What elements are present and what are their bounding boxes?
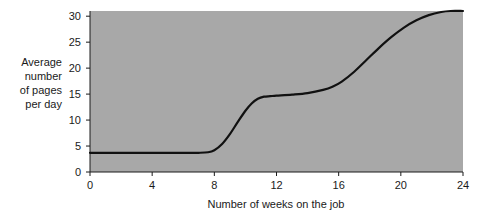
- x-tick-label: 4: [149, 179, 155, 191]
- y-axis-title-line: of pages: [20, 84, 63, 96]
- y-tick-label: 0: [75, 166, 81, 178]
- y-axis-title-line: per day: [25, 98, 62, 110]
- x-tick-label: 8: [211, 179, 217, 191]
- x-tick-label: 16: [333, 179, 345, 191]
- y-tick-label: 10: [69, 114, 81, 126]
- y-tick-label: 25: [69, 36, 81, 48]
- x-tick-label: 12: [270, 179, 282, 191]
- y-axis-title-line: number: [25, 70, 63, 82]
- x-tick-label: 24: [457, 179, 469, 191]
- line-chart: 051015202530 04812162024 Averagenumberof…: [0, 0, 497, 224]
- plot-area-background: [90, 11, 463, 172]
- y-tick-label: 5: [75, 140, 81, 152]
- y-tick-label: 20: [69, 62, 81, 74]
- x-tick-label: 0: [87, 179, 93, 191]
- x-tick-label: 20: [395, 179, 407, 191]
- chart-container: 051015202530 04812162024 Averagenumberof…: [0, 0, 497, 224]
- y-axis-title-line: Average: [21, 56, 62, 68]
- y-tick-label: 30: [69, 10, 81, 22]
- x-axis-title-label: Number of weeks on the job: [208, 198, 345, 210]
- y-tick-label: 15: [69, 88, 81, 100]
